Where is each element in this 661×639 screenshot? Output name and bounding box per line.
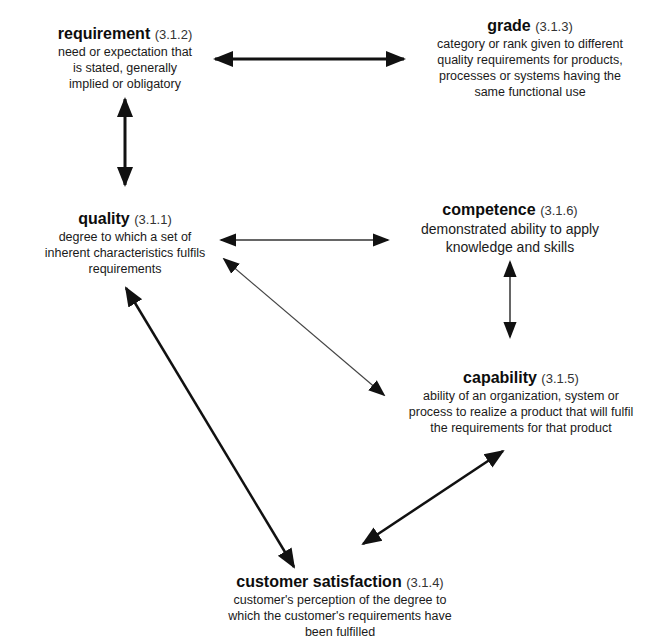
concept-quality: quality (3.1.1) degree to which a set of… [20,211,230,277]
concept-term: grade [487,17,531,34]
concept-requirement: requirement (3.1.2) need or expectation … [20,26,230,92]
concept-heading: capability (3.1.5) [390,370,652,387]
concept-capability: capability (3.1.5) ability of an organiz… [390,370,652,436]
arrow-capability-customer-satisfaction [363,451,503,544]
concept-grade: grade (3.1.3) category or rank given to … [405,18,655,100]
concept-ref: (3.1.1) [134,212,172,227]
concept-ref: (3.1.6) [540,203,578,218]
concept-ref: (3.1.2) [155,27,193,42]
arrow-quality-customer-satisfaction [126,288,294,567]
concept-ref: (3.1.5) [541,371,579,386]
concept-competence: competence (3.1.6) demonstrated ability … [405,202,615,256]
concept-heading: grade (3.1.3) [405,18,655,35]
concept-definition: demonstrated ability to apply knowledge … [405,220,615,256]
concept-ref: (3.1.4) [406,575,444,590]
concept-term: quality [78,210,130,227]
concept-term: capability [463,369,537,386]
concept-definition: customer's perception of the degree to w… [195,592,485,639]
concept-heading: competence (3.1.6) [405,202,615,219]
concept-customer-satisfaction: customer satisfaction (3.1.4) customer's… [195,574,485,639]
concept-term: customer satisfaction [236,573,401,590]
concept-term: competence [442,201,535,218]
concept-definition: category or rank given to different qual… [405,36,655,100]
concept-definition: need or expectation that is stated, gene… [20,44,230,92]
concept-definition: degree to which a set of inherent charac… [20,229,230,277]
concept-ref: (3.1.3) [535,19,573,34]
concept-definition: ability of an organization, system or pr… [390,388,652,436]
concept-term: requirement [58,25,150,42]
concept-heading: customer satisfaction (3.1.4) [195,574,485,591]
concept-heading: requirement (3.1.2) [20,26,230,43]
concept-heading: quality (3.1.1) [20,211,230,228]
arrow-quality-capability [224,259,384,395]
